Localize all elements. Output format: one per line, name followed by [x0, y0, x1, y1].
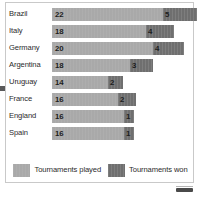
bar-segment-won: 2 — [108, 76, 123, 89]
bar-value-won: 1 — [126, 129, 130, 138]
legend-swatch-won-icon — [108, 164, 125, 177]
bar-value-won: 4 — [155, 44, 159, 53]
bar-value-played: 16 — [55, 112, 64, 121]
chart-row: Uruguay142 — [6, 75, 193, 92]
chart-row: Spain161 — [6, 126, 193, 143]
left-edge-marker — [0, 86, 5, 91]
legend-label-won: Tournaments won — [129, 165, 187, 175]
legend-item-tournaments-won: Tournaments won — [108, 164, 187, 177]
bar-value-won: 2 — [120, 95, 124, 104]
row-label-spain: Spain — [9, 128, 52, 138]
bar-segment-won: 2 — [118, 93, 136, 106]
bar-segment-played: 18 — [52, 25, 146, 38]
bar-segment-played: 16 — [52, 93, 118, 106]
bar-value-played: 14 — [55, 78, 64, 87]
row-bar-group: 142 — [52, 76, 123, 89]
row-label-england: England — [9, 111, 52, 121]
chart-row: Italy184 — [6, 24, 193, 41]
bar-segment-won: 1 — [124, 127, 134, 140]
chart-plot-area: Brazil225Italy184Germany204Argentina183U… — [6, 7, 193, 143]
bar-value-played: 18 — [55, 27, 64, 36]
legend-swatch-played-icon — [13, 164, 30, 177]
bar-value-won: 2 — [110, 78, 114, 87]
row-bar-group: 162 — [52, 93, 136, 106]
bar-value-played: 20 — [55, 44, 64, 53]
row-bar-group: 183 — [52, 59, 153, 72]
bar-segment-won: 5 — [163, 8, 197, 21]
bar-segment-played: 16 — [52, 127, 124, 140]
bar-segment-won: 1 — [124, 110, 134, 123]
chart-row: Brazil225 — [6, 7, 193, 24]
bar-segment-won: 3 — [130, 59, 153, 72]
bottom-right-tab — [176, 188, 193, 192]
bar-value-won: 3 — [132, 61, 136, 70]
row-bar-group: 184 — [52, 25, 174, 38]
bar-value-won: 5 — [165, 10, 169, 19]
row-label-france: France — [9, 94, 52, 104]
row-bar-group: 161 — [52, 110, 134, 123]
row-label-germany: Germany — [9, 43, 52, 53]
row-label-italy: Italy — [9, 26, 52, 36]
bar-value-won: 4 — [148, 27, 152, 36]
legend-item-tournaments-played: Tournaments played — [13, 164, 101, 177]
stacked-bar-chart-card: Brazil225Italy184Germany204Argentina183U… — [5, 2, 194, 183]
row-bar-group: 204 — [52, 42, 184, 55]
row-label-uruguay: Uruguay — [9, 77, 52, 87]
chart-row: England161 — [6, 109, 193, 126]
bar-value-played: 18 — [55, 61, 64, 70]
bar-value-won: 1 — [126, 112, 130, 121]
row-label-argentina: Argentina — [9, 60, 52, 70]
bottom-right-divider — [176, 186, 193, 187]
bar-segment-played: 20 — [52, 42, 153, 55]
chart-row: Germany204 — [6, 41, 193, 58]
row-label-brazil: Brazil — [9, 9, 52, 19]
bar-segment-played: 16 — [52, 110, 124, 123]
bar-segment-won: 4 — [146, 25, 174, 38]
legend-label-played: Tournaments played — [34, 165, 101, 175]
chart-legend: Tournaments played Tournaments won — [6, 159, 195, 181]
bar-segment-played: 22 — [52, 8, 163, 21]
bar-value-played: 22 — [55, 10, 64, 19]
bar-value-played: 16 — [55, 129, 64, 138]
bar-segment-played: 18 — [52, 59, 130, 72]
bar-segment-won: 4 — [153, 42, 184, 55]
bar-segment-played: 14 — [52, 76, 108, 89]
row-bar-group: 161 — [52, 127, 134, 140]
row-bar-group: 225 — [52, 8, 197, 21]
bar-value-played: 16 — [55, 95, 64, 104]
chart-row: France162 — [6, 92, 193, 109]
chart-row: Argentina183 — [6, 58, 193, 75]
